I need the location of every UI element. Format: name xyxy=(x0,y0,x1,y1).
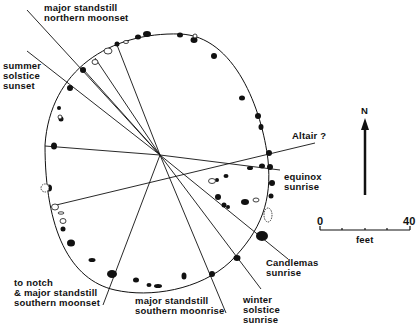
label-winter-solstice-sunrise: winter solstice sunrise xyxy=(243,295,280,325)
label-notch-southern-moonset: to notch & major standstill southern moo… xyxy=(14,278,100,308)
scale-bar xyxy=(320,226,410,230)
standing-stones xyxy=(46,31,275,288)
north-arrow xyxy=(361,118,369,195)
scale-unit-label: feet xyxy=(356,235,374,245)
label-altair: Altair ? xyxy=(292,131,326,141)
label-major-southern-moonrise: major standstill southern moonrise xyxy=(135,296,224,316)
label-equinox-sunrise: equinox sunrise xyxy=(284,172,322,192)
label-candlemas-sunrise: Candlemas sunrise xyxy=(266,258,319,278)
north-label: N xyxy=(361,106,368,116)
scale-start-label: 0 xyxy=(317,216,323,226)
label-major-northern-moonset: major standstill northern moonset xyxy=(44,3,128,23)
scale-end-label: 40 xyxy=(403,216,416,226)
label-summer-solstice-sunset: summer solstice sunset xyxy=(3,61,41,91)
